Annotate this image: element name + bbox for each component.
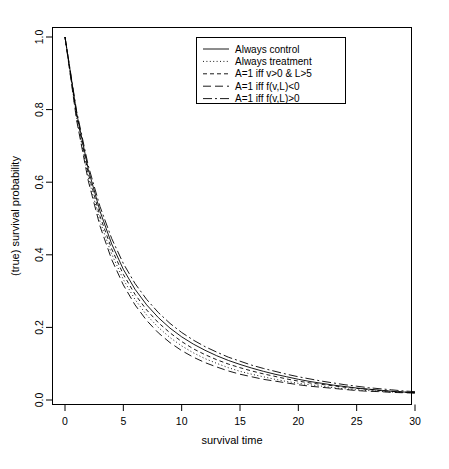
legend-label-3: A=1 iff f(v,L)<0 <box>235 81 300 92</box>
x-tick-label: 0 <box>62 415 68 427</box>
y-tick-label: 0.8 <box>33 102 45 117</box>
legend-label-0: Always control <box>235 44 299 55</box>
x-tick-label: 5 <box>120 415 126 427</box>
x-tick-label: 15 <box>234 415 246 427</box>
survival-curve-plot: 0.00.20.40.60.81.0 051015202530 survival… <box>0 0 449 469</box>
y-axis-ticks: 0.00.20.40.60.81.0 <box>33 30 53 408</box>
y-tick-label: 0.2 <box>33 320 45 335</box>
x-tick-label: 30 <box>409 415 421 427</box>
x-tick-label: 20 <box>292 415 304 427</box>
x-tick-label: 10 <box>176 415 188 427</box>
x-axis-ticks: 051015202530 <box>62 405 421 428</box>
legend-label-4: A=1 iff f(v,L)>0 <box>235 93 300 104</box>
y-tick-label: 0.0 <box>33 393 45 408</box>
legend-label-1: Always treatment <box>235 56 312 67</box>
y-tick-label: 0.6 <box>33 175 45 190</box>
y-axis-label: (true) survival probability <box>9 156 21 276</box>
x-axis-label: survival time <box>201 434 262 446</box>
x-tick-label: 25 <box>351 415 363 427</box>
legend-label-2: A=1 iff v>0 & L>5 <box>235 68 312 79</box>
chart-container: 0.00.20.40.60.81.0 051015202530 survival… <box>0 0 449 469</box>
y-tick-label: 0.4 <box>33 247 45 262</box>
y-tick-label: 1.0 <box>33 30 45 45</box>
legend: Always controlAlways treatmentA=1 iff v>… <box>197 38 346 105</box>
